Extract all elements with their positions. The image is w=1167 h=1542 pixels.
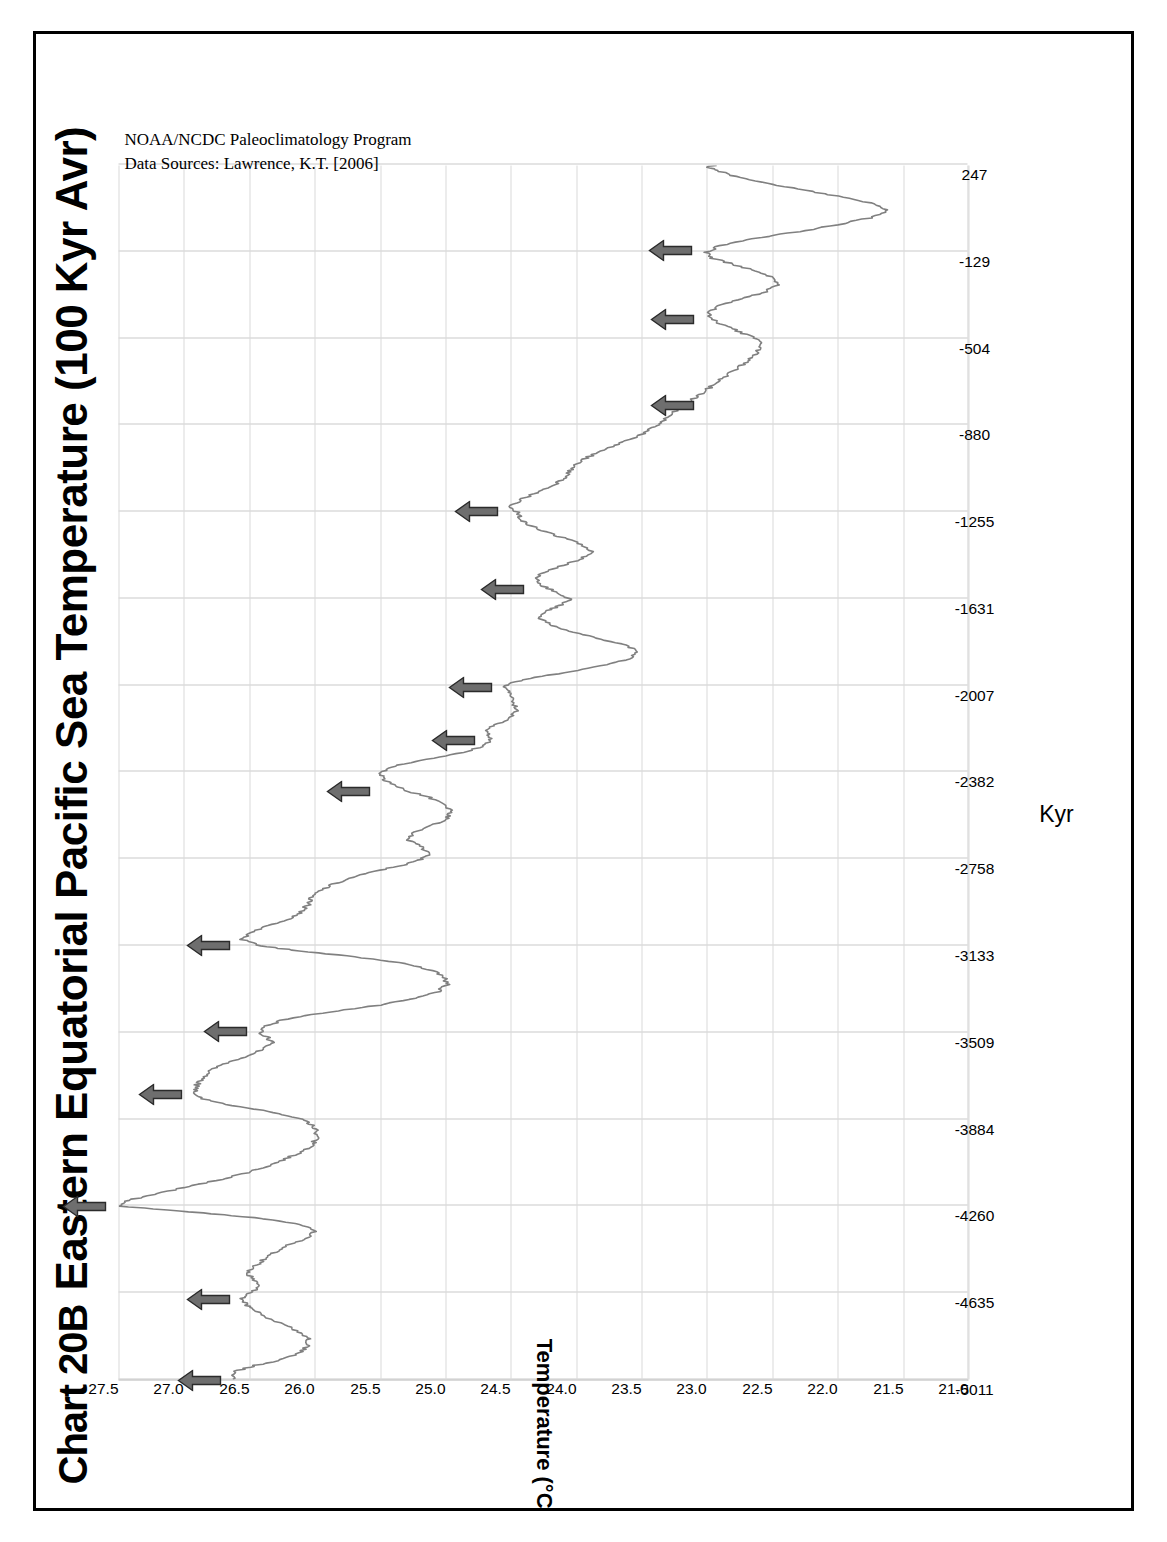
x-tick-label: -3884: [954, 1120, 994, 1138]
x-tick-label: -3509: [954, 1033, 994, 1051]
y-tick-label: 25.5: [349, 1379, 379, 1397]
x-tick-label: -4260: [954, 1206, 994, 1224]
arrow-marker-5-icon: [202, 1020, 248, 1042]
arrow-marker-12-icon: [649, 394, 695, 416]
y-tick-label: 22.5: [742, 1379, 772, 1397]
y-tick-label: 22.0: [807, 1379, 837, 1397]
arrow-marker-2-icon: [185, 1288, 231, 1310]
arrow-marker-10-icon: [479, 579, 525, 601]
x-tick-label: -2758: [954, 859, 994, 877]
y-tick-label: 24.5: [480, 1379, 510, 1397]
arrow-marker-11-icon: [453, 500, 499, 522]
chart-frame: Chart 20B Eastern Equatorial Pacific Sea…: [33, 31, 1134, 1511]
chart-stage: Chart 20B Eastern Equatorial Pacific Sea…: [36, 34, 1131, 1508]
data-source-line-1: Data Sources: Lawrence, K.T. [2006]: [124, 153, 378, 173]
data-source-line-2: NOAA/NCDC Paleoclimatology Program: [124, 129, 411, 149]
x-tick-label: -2007: [954, 686, 994, 704]
x-tick-label: -880: [958, 425, 989, 443]
x-tick-label: -1631: [954, 599, 994, 617]
x-tick-label: -1255: [954, 512, 994, 530]
x-axis-title: Kyr: [1039, 800, 1074, 827]
page-canvas: Chart 20B Eastern Equatorial Pacific Sea…: [0, 0, 1167, 1542]
page-title: Eastern Equatorial Pacific Sea Temperatu…: [46, 126, 96, 1290]
y-tick-label: 26.0: [284, 1379, 314, 1397]
y-tick-label: 21.5: [872, 1379, 902, 1397]
arrow-marker-1-icon: [176, 1369, 222, 1391]
y-tick-label: 23.0: [676, 1379, 706, 1397]
arrow-marker-6-icon: [185, 934, 231, 956]
x-tick-label: -2382: [954, 773, 994, 791]
y-tick-label: 23.5: [611, 1379, 641, 1397]
x-tick-label: 247: [961, 165, 987, 183]
x-tick-label: -4635: [954, 1293, 994, 1311]
arrow-marker-4-icon: [137, 1083, 183, 1105]
x-tick-label: -504: [958, 339, 989, 357]
data-line-0: [119, 165, 887, 1379]
plot-area: [118, 165, 968, 1380]
y-axis-title: Temperature (°Celcius): [530, 1338, 556, 1508]
y-tick-label: 27.5: [88, 1379, 118, 1397]
x-tick-label: -3133: [954, 946, 994, 964]
arrow-marker-3-icon: [61, 1195, 107, 1217]
rotated-chart-wrapper: Chart 20B Eastern Equatorial Pacific Sea…: [36, 34, 1131, 1508]
x-tick-label: -129: [958, 252, 989, 270]
arrow-marker-8-icon: [430, 729, 476, 751]
arrow-marker-14-icon: [647, 239, 693, 261]
y-tick-label: 25.0: [415, 1379, 445, 1397]
arrow-marker-13-icon: [649, 308, 695, 330]
chart-title-row: Chart 20B Eastern Equatorial Pacific Sea…: [46, 126, 96, 1484]
arrow-marker-9-icon: [447, 676, 493, 698]
arrow-marker-7-icon: [325, 780, 371, 802]
x-tick-label: -5011: [955, 1380, 994, 1398]
series-layer: [118, 165, 967, 1379]
y-tick-label: 26.5: [219, 1379, 249, 1397]
